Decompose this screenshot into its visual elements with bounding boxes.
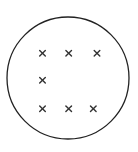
cross-icon bbox=[40, 51, 46, 57]
cross-icon bbox=[91, 106, 97, 112]
cross-marks bbox=[40, 51, 100, 112]
cross-icon bbox=[66, 51, 72, 57]
set-diagram bbox=[0, 0, 138, 152]
cross-icon bbox=[94, 51, 100, 57]
set-circle bbox=[7, 17, 129, 139]
cross-icon bbox=[40, 78, 46, 84]
cross-icon bbox=[40, 106, 46, 112]
cross-icon bbox=[66, 106, 72, 112]
